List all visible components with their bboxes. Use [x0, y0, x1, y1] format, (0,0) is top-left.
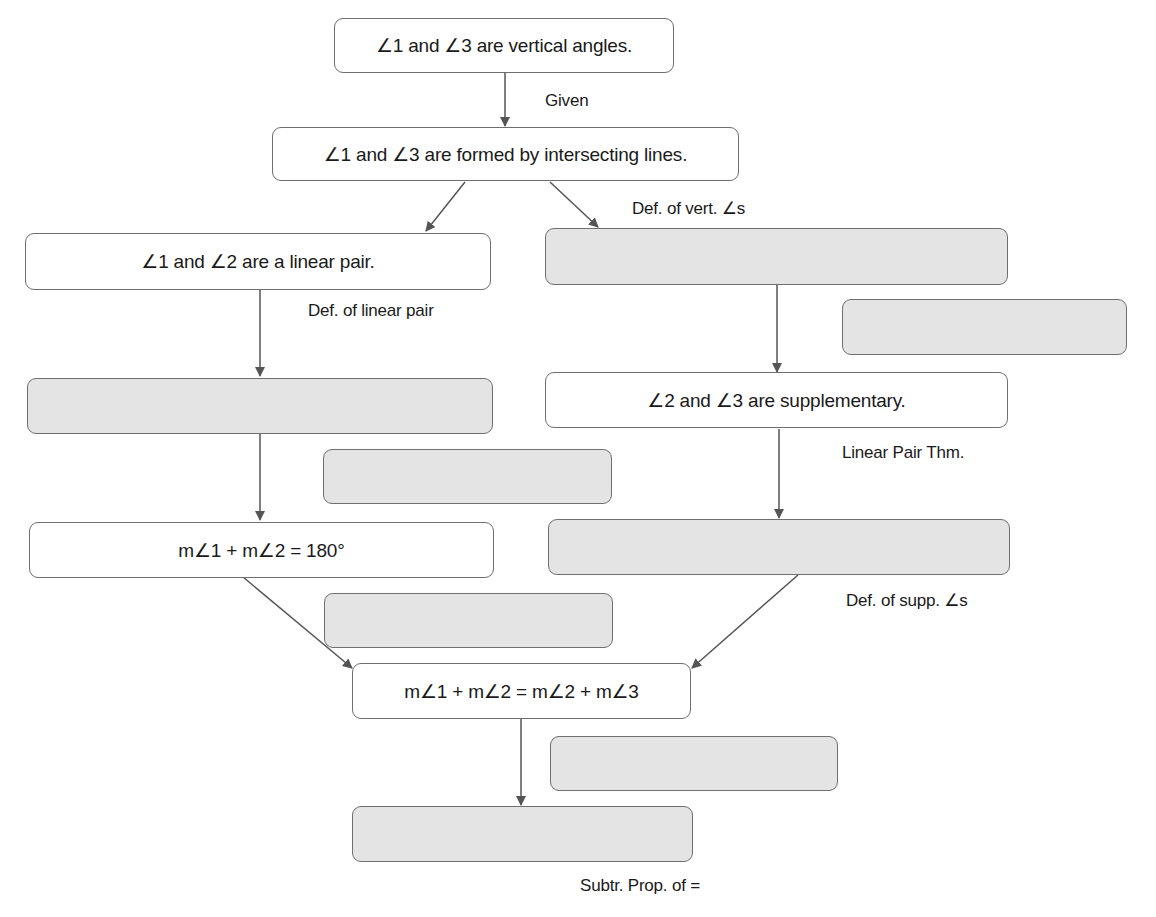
- blank-reason-middle-2[interactable]: [324, 593, 613, 648]
- blank-reason-right-1[interactable]: [842, 299, 1127, 355]
- statement-text: ∠1 and ∠3 are vertical angles.: [376, 34, 632, 57]
- reason-def-supp-angles: Def. of supp. ∠s: [846, 590, 968, 611]
- statement-text: ∠2 and ∠3 are supplementary.: [647, 389, 905, 412]
- statement-text: m∠1 + m∠2 = 180°: [178, 539, 344, 562]
- statement-intersecting-lines: ∠1 and ∠3 are formed by intersecting lin…: [272, 127, 739, 181]
- reason-linear-pair-thm: Linear Pair Thm.: [842, 443, 964, 463]
- arrow-s8-s9: [692, 575, 798, 668]
- blank-reason-lower-right[interactable]: [550, 736, 838, 791]
- statement-vertical-angles: ∠1 and ∠3 are vertical angles.: [334, 18, 674, 73]
- reason-def-linear-pair: Def. of linear pair: [308, 301, 434, 321]
- statement-text: ∠1 and ∠3 are formed by intersecting lin…: [324, 143, 687, 166]
- blank-statement-right-1[interactable]: [545, 228, 1008, 285]
- blank-statement-final[interactable]: [352, 806, 693, 862]
- reason-subtr-prop: Subtr. Prop. of =: [580, 876, 700, 896]
- blank-reason-middle-1[interactable]: [323, 449, 612, 504]
- statement-supplementary: ∠2 and ∠3 are supplementary.: [545, 372, 1008, 428]
- blank-statement-left-2[interactable]: [27, 378, 493, 434]
- arrow-s2-s3: [426, 182, 465, 231]
- arrow-s2-s4: [550, 182, 598, 227]
- statement-linear-pair: ∠1 and ∠2 are a linear pair.: [25, 233, 491, 290]
- reason-def-vert-angles: Def. of vert. ∠s: [632, 198, 745, 219]
- statement-text: m∠1 + m∠2 = m∠2 + m∠3: [404, 680, 638, 703]
- statement-sums-equal: m∠1 + m∠2 = m∠2 + m∠3: [352, 663, 691, 719]
- reason-given: Given: [545, 91, 588, 111]
- statement-sum-180: m∠1 + m∠2 = 180°: [29, 522, 494, 578]
- blank-statement-right-3[interactable]: [548, 519, 1010, 575]
- statement-text: ∠1 and ∠2 are a linear pair.: [141, 250, 374, 273]
